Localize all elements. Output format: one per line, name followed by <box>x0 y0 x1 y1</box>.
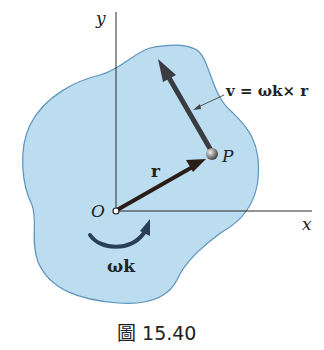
figure-caption: 圖 15.40 <box>117 322 196 344</box>
velocity-equation-label: v = ωk× r <box>225 82 309 100</box>
origin-label: O <box>91 201 105 221</box>
x-axis-label: x <box>302 214 312 234</box>
angular-velocity-label: ωk <box>107 256 136 276</box>
y-axis-label: y <box>95 8 106 28</box>
rigid-body-rotation-diagram: y x O r P v = ωk× r ωk 圖 15.40 <box>0 0 324 350</box>
origin-point <box>113 208 119 214</box>
point-p <box>206 148 218 160</box>
position-vector-label: r <box>151 161 161 181</box>
rigid-body-shape <box>23 45 259 303</box>
point-p-label: P <box>221 146 234 166</box>
